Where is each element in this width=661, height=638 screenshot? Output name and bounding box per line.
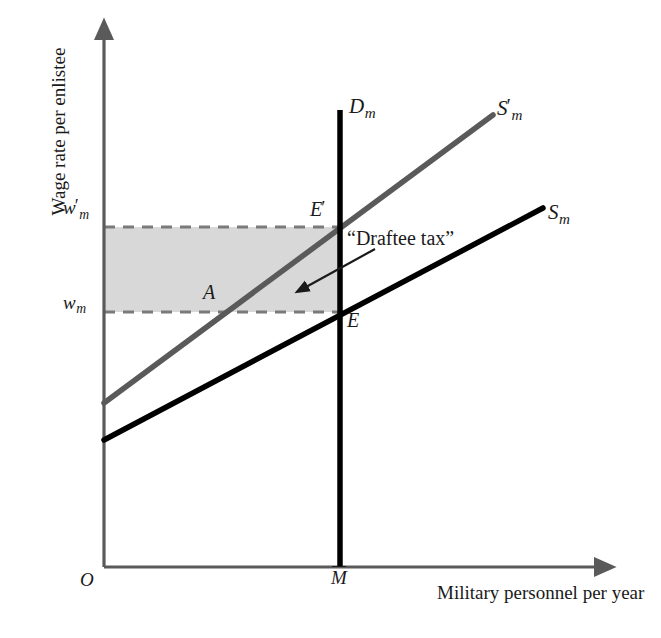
x-tick-label-m-bar: M — [331, 568, 347, 587]
w-base: w — [63, 292, 76, 313]
demand-label-subscript: m — [365, 105, 376, 121]
point-label-a: A — [203, 282, 215, 302]
point-label-e-prime: E′ — [310, 198, 325, 219]
supply-shifted-label-base: S — [497, 96, 508, 120]
w-prime-subscript: m — [79, 207, 89, 222]
supply-label-subscript: m — [559, 211, 570, 227]
shaded-draftee-tax-area — [104, 227, 340, 312]
draftee-tax-annotation: “Draftee tax” — [347, 228, 454, 248]
demand-curve-label: Dm — [349, 96, 376, 121]
m-bar-base: M — [331, 568, 347, 587]
origin-label: O — [80, 570, 94, 589]
w-subscript: m — [76, 301, 86, 316]
y-tick-label-w: wm — [63, 293, 86, 316]
supply-shifted-label-subscript: m — [511, 107, 522, 123]
economics-figure: Wage rate per enlistee Military personne… — [0, 0, 661, 638]
diagram-canvas — [0, 0, 661, 638]
demand-label-base: D — [349, 94, 364, 118]
supply-curve-label: Sm — [548, 202, 570, 227]
w-prime-base: w — [63, 197, 76, 218]
x-axis-title: Military personnel per year — [437, 583, 644, 602]
y-tick-label-w-prime: w′m — [63, 197, 89, 221]
point-label-e: E — [347, 310, 359, 330]
e-prime-mark: ′ — [321, 197, 325, 218]
supply-shifted-curve-label: S′m — [497, 97, 522, 123]
supply-label-base: S — [548, 200, 559, 224]
